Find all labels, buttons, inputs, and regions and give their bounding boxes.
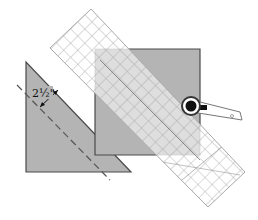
- quilt-cutting-diagram: 2½": [0, 0, 258, 220]
- cutter-wheel: [186, 101, 197, 112]
- cutter-lock: [200, 105, 207, 110]
- measurement-label: 2½": [32, 87, 55, 100]
